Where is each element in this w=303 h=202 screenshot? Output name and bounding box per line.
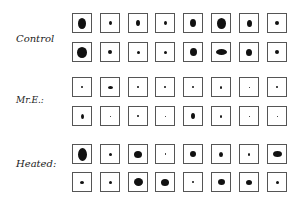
label-control: Control bbox=[16, 33, 54, 44]
specimen-blob bbox=[190, 151, 196, 157]
specimen-blob bbox=[109, 153, 112, 156]
specimen-blob bbox=[137, 51, 140, 54]
specimen-box bbox=[267, 77, 287, 97]
specimen-box bbox=[128, 144, 148, 164]
specimen-box bbox=[72, 77, 92, 97]
specimen-blob bbox=[164, 51, 167, 54]
specimen-blob bbox=[137, 115, 139, 117]
specimen-blob bbox=[219, 152, 223, 157]
specimen-blob bbox=[109, 181, 112, 184]
specimen-blob bbox=[246, 180, 252, 185]
specimen-box bbox=[183, 42, 203, 62]
specimen-box bbox=[183, 77, 203, 97]
specimen-blob bbox=[277, 116, 278, 117]
specimen-blob bbox=[249, 87, 250, 88]
specimen-box bbox=[72, 106, 92, 126]
specimen-blob bbox=[80, 181, 84, 184]
specimen-blob bbox=[161, 179, 169, 186]
specimen-box bbox=[239, 77, 259, 97]
specimen-blob bbox=[273, 151, 282, 157]
specimen-box bbox=[183, 13, 203, 33]
specimen-box bbox=[183, 106, 203, 126]
specimen-box bbox=[183, 144, 203, 164]
specimen-blob bbox=[81, 114, 84, 119]
specimen-box bbox=[155, 144, 175, 164]
specimen-box bbox=[267, 42, 287, 62]
specimen-box bbox=[155, 77, 175, 97]
specimen-blob bbox=[192, 86, 194, 88]
specimen-blob bbox=[191, 113, 195, 119]
specimen-box bbox=[239, 106, 259, 126]
specimen-box bbox=[100, 172, 120, 192]
specimen-box bbox=[100, 77, 120, 97]
specimen-blob bbox=[246, 49, 252, 56]
specimen-blob bbox=[216, 49, 227, 55]
specimen-blob bbox=[275, 21, 279, 25]
specimen-box bbox=[267, 13, 287, 33]
specimen-box bbox=[211, 42, 231, 62]
specimen-box bbox=[239, 172, 259, 192]
specimen-box bbox=[72, 42, 92, 62]
specimen-box bbox=[100, 144, 120, 164]
specimen-box bbox=[267, 144, 287, 164]
specimen-blob bbox=[218, 179, 225, 185]
specimen-blob bbox=[78, 148, 87, 161]
specimen-box bbox=[267, 172, 287, 192]
specimen-box bbox=[128, 13, 148, 33]
specimen-box bbox=[72, 172, 92, 192]
specimen-blob bbox=[220, 86, 222, 89]
label-mre: Mr.E.: bbox=[16, 95, 44, 105]
specimen-blob bbox=[108, 50, 112, 54]
specimen-box bbox=[239, 13, 259, 33]
specimen-box bbox=[211, 13, 231, 33]
specimen-blob bbox=[247, 20, 252, 27]
specimen-blob bbox=[134, 178, 143, 186]
label-heated: Heated: bbox=[16, 158, 56, 169]
specimen-box bbox=[100, 42, 120, 62]
specimen-box bbox=[267, 106, 287, 126]
specimen-blob bbox=[134, 151, 142, 158]
specimen-box bbox=[72, 144, 92, 164]
specimen-blob bbox=[165, 153, 166, 155]
specimen-blob bbox=[275, 50, 279, 54]
specimen-box bbox=[155, 172, 175, 192]
specimen-box bbox=[128, 106, 148, 126]
specimen-blob bbox=[190, 19, 196, 27]
specimen-blob bbox=[109, 21, 112, 25]
specimen-box bbox=[155, 13, 175, 33]
specimen-blob bbox=[217, 18, 226, 29]
specimen-box bbox=[155, 106, 175, 126]
specimen-box bbox=[211, 172, 231, 192]
specimen-blob bbox=[192, 181, 194, 183]
specimen-blob bbox=[164, 21, 167, 25]
specimen-box bbox=[100, 13, 120, 33]
specimen-blob bbox=[190, 48, 197, 56]
specimen-blob bbox=[220, 115, 222, 118]
specimen-blob bbox=[110, 116, 111, 117]
specimen-blob bbox=[249, 116, 250, 117]
specimen-box bbox=[239, 144, 259, 164]
specimen-box bbox=[211, 77, 231, 97]
specimen-blob bbox=[81, 86, 83, 88]
specimen-box bbox=[128, 42, 148, 62]
specimen-blob bbox=[108, 86, 113, 89]
specimen-blob bbox=[165, 116, 166, 117]
specimen-blob bbox=[78, 18, 86, 29]
specimen-blob bbox=[248, 153, 250, 156]
specimen-box bbox=[128, 172, 148, 192]
specimen-blob bbox=[77, 47, 87, 58]
specimen-box bbox=[155, 42, 175, 62]
specimen-blob bbox=[164, 86, 166, 88]
specimen-blob bbox=[136, 20, 140, 26]
specimen-blob bbox=[137, 86, 139, 88]
specimen-box bbox=[239, 42, 259, 62]
specimen-blob bbox=[276, 86, 278, 88]
specimen-box bbox=[211, 106, 231, 126]
specimen-box bbox=[183, 172, 203, 192]
specimen-blob bbox=[276, 181, 279, 184]
specimen-box bbox=[128, 77, 148, 97]
specimen-box bbox=[211, 144, 231, 164]
specimen-box bbox=[100, 106, 120, 126]
specimen-box bbox=[72, 13, 92, 33]
